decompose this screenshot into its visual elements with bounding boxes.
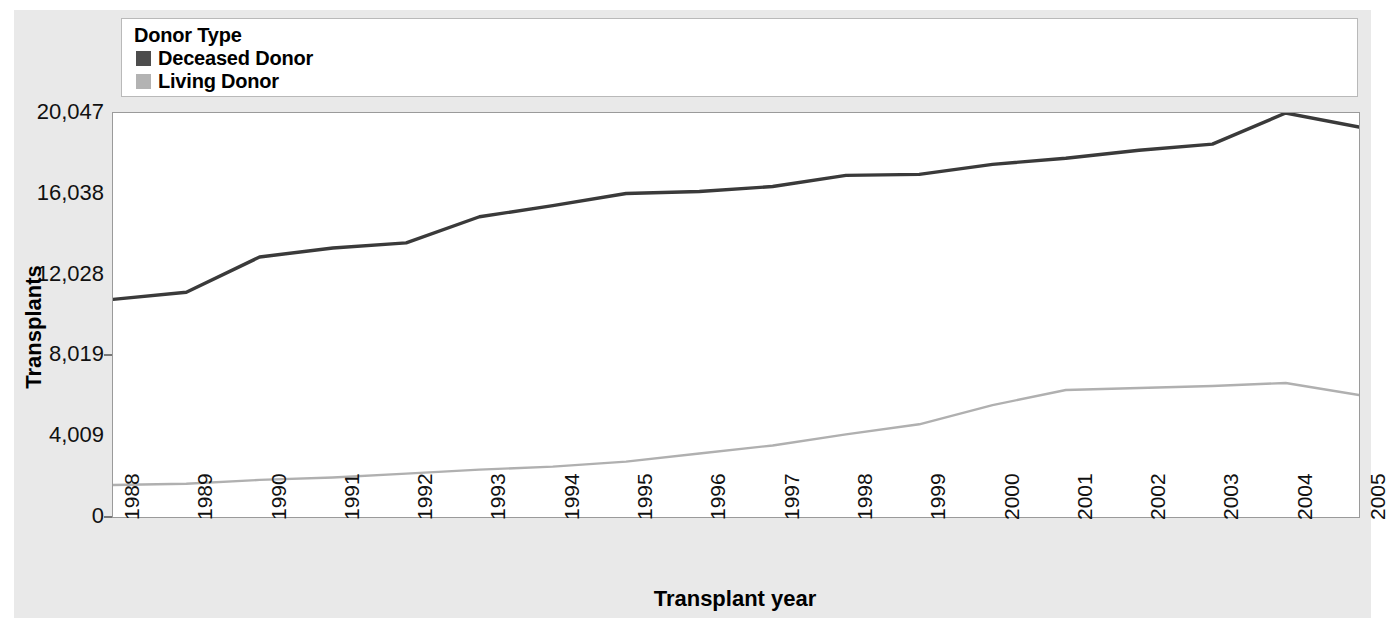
x-axis-tick: 1997: [760, 520, 784, 584]
plot-lines: [113, 113, 1359, 517]
legend-swatch-deceased-donor: [136, 51, 151, 66]
x-axis-tick: 1989: [173, 520, 197, 584]
legend-item-living-donor: Living Donor: [136, 70, 1357, 93]
x-axis-tick-label: 2001: [1074, 473, 1095, 520]
x-axis-tick: 2005: [1346, 520, 1370, 584]
y-axis-tick-label: 4,009: [4, 422, 104, 448]
x-axis-tick-label: 2003: [1220, 473, 1241, 520]
legend-swatch-living-donor: [136, 74, 151, 89]
x-axis-tick-label: 1995: [634, 473, 655, 520]
plot-area: [112, 112, 1360, 518]
y-axis-tick-label: 8,019: [4, 341, 104, 367]
x-axis-tick: 1994: [540, 520, 564, 584]
x-axis-tick-label: 1991: [341, 473, 362, 520]
y-axis-tick-mark: [104, 354, 112, 356]
x-axis-tick: 1992: [393, 520, 417, 584]
x-axis-tick: 1988: [100, 520, 124, 584]
x-axis-tick: 1996: [686, 520, 710, 584]
x-axis-tick: 2000: [980, 520, 1004, 584]
x-axis-tick: 2003: [1199, 520, 1223, 584]
legend-title: Donor Type: [134, 24, 1357, 47]
x-axis-tick-label: 2000: [1001, 473, 1022, 520]
y-axis-tick-label: 20,047: [4, 99, 104, 125]
x-axis-tick-label: 1988: [121, 473, 142, 520]
x-axis-tick-label: 1998: [854, 473, 875, 520]
x-axis-tick-label: 1992: [414, 473, 435, 520]
y-axis-tick-label: 16,038: [4, 180, 104, 206]
x-axis: 1988198919901991199219931994199519961997…: [112, 520, 1358, 586]
x-axis-tick-label: 2005: [1367, 473, 1388, 520]
x-axis-tick-label: 2002: [1147, 473, 1168, 520]
x-axis-tick-label: 2004: [1294, 473, 1315, 520]
x-axis-tick-label: 1996: [707, 473, 728, 520]
y-axis-tick-label: 0: [4, 503, 104, 529]
y-axis-tick-mark: [104, 516, 112, 518]
x-axis-tick: 2001: [1053, 520, 1077, 584]
x-axis-tick: 2004: [1273, 520, 1297, 584]
x-axis-tick-label: 1989: [194, 473, 215, 520]
legend-item-deceased-donor: Deceased Donor: [136, 47, 1357, 70]
x-axis-tick: 2002: [1126, 520, 1150, 584]
x-axis-tick: 1993: [466, 520, 490, 584]
x-axis-tick-label: 1997: [781, 473, 802, 520]
x-axis-tick: 1999: [906, 520, 930, 584]
x-axis-tick-label: 1990: [268, 473, 289, 520]
x-axis-tick: 1998: [833, 520, 857, 584]
legend-label-deceased-donor: Deceased Donor: [158, 47, 313, 70]
x-axis-title: Transplant year: [112, 586, 1358, 612]
x-axis-tick-label: 1994: [561, 473, 582, 520]
x-axis-tick-label: 1993: [487, 473, 508, 520]
legend: Donor Type Deceased Donor Living Donor: [121, 18, 1358, 97]
series-line-living-donor: [113, 383, 1359, 485]
x-axis-tick: 1991: [320, 520, 344, 584]
x-axis-tick-label: 1999: [927, 473, 948, 520]
x-axis-tick: 1995: [613, 520, 637, 584]
series-line-deceased-donor: [113, 113, 1359, 299]
legend-label-living-donor: Living Donor: [158, 70, 279, 93]
y-axis-tick-label: 12,028: [4, 261, 104, 287]
y-axis: 04,0098,01912,02816,03820,047: [0, 112, 104, 516]
x-axis-tick: 1990: [247, 520, 271, 584]
y-axis-title: Transplants: [21, 197, 47, 457]
